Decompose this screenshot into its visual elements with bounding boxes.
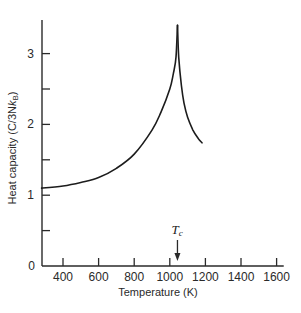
y-axis-label-close: ) — [6, 92, 18, 96]
y-tick-label: 2 — [27, 117, 34, 131]
x-tick-label: 1600 — [263, 270, 290, 284]
curve-above-tc — [178, 25, 203, 143]
y-tick-label: 0 — [28, 259, 35, 273]
tc-label: Tc — [171, 222, 182, 238]
y-tick-label: 1 — [27, 188, 34, 202]
y-tick-label: 3 — [27, 47, 34, 61]
x-tick-label: 1000 — [156, 270, 183, 284]
axes: 40060080010001200140016000123 — [27, 20, 290, 284]
y-axis-label-main: Heat capacity (C/3N — [6, 106, 18, 204]
y-axis-label: Heat capacity (C/3NkB) — [6, 92, 20, 205]
x-tick-label: 400 — [53, 270, 73, 284]
x-tick-label: 1200 — [192, 270, 219, 284]
x-tick-label: 600 — [89, 270, 109, 284]
x-axis-label: Temperature (K) — [118, 286, 197, 298]
x-tick-label: 1400 — [228, 270, 255, 284]
tc-annotation: Tc — [171, 222, 182, 261]
heat-capacity-chart: 40060080010001200140016000123 Tc Tempera… — [0, 0, 301, 313]
arrow-down-icon — [174, 253, 180, 261]
x-tick-label: 800 — [124, 270, 144, 284]
heat-capacity-curve — [42, 25, 202, 188]
curve-below-tc — [42, 25, 178, 188]
